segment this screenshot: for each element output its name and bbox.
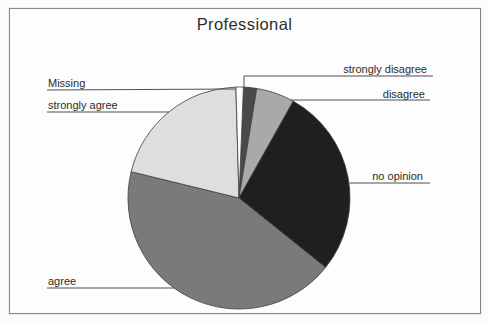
slice-label-missing: Missing <box>48 77 85 89</box>
slice-label-strongly-agree: strongly agree <box>48 99 118 111</box>
slice-label-no-opinion: no opinion <box>372 170 423 182</box>
slice-label-disagree: disagree <box>383 88 425 100</box>
leader-line-strongly-disagree <box>244 76 433 88</box>
slice-label-agree: agree <box>48 275 76 287</box>
leader-line-missing <box>47 89 236 90</box>
slice-label-strongly-disagree: strongly disagree <box>343 63 427 75</box>
chart-canvas: Professional strongly disagree disagree … <box>0 0 488 326</box>
